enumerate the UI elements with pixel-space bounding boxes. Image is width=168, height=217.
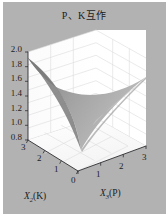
- y-tick-label-2: 2: [37, 154, 42, 163]
- y-tick-label-0: 0: [71, 176, 76, 185]
- x-tick-label-2: 2: [119, 162, 124, 171]
- x-tick-label-1: 1: [96, 170, 101, 179]
- z-tick-label-2-0: 2.0: [0, 45, 22, 54]
- y-tick-label-3: 3: [21, 143, 26, 152]
- x-tick-label-3: 3: [142, 153, 147, 162]
- y-axis-label: X2(K): [24, 192, 46, 203]
- chart-title: P、K互作: [0, 11, 168, 21]
- x-axis-label-unit: (P): [109, 188, 121, 198]
- y-tick-label-1: 1: [54, 165, 59, 174]
- z-tick-label-1-2: 1.2: [0, 104, 22, 113]
- surface-plot-canvas: [0, 0, 168, 217]
- chart-figure: P、K互作 2.0 1.8 1.6 1.4 1.2 1.0 0.8 3 2 1 …: [0, 0, 168, 217]
- z-tick-label-0-8: 0.8: [0, 133, 22, 142]
- z-tick-label-1-6: 1.6: [0, 74, 22, 83]
- z-tick-label-1-0: 1.0: [0, 118, 22, 127]
- z-tick-label-1-4: 1.4: [0, 89, 22, 98]
- z-tick-label-1-8: 1.8: [0, 60, 22, 69]
- y-axis-label-unit: (K): [33, 191, 46, 201]
- x-axis-label: X3(P): [100, 189, 121, 200]
